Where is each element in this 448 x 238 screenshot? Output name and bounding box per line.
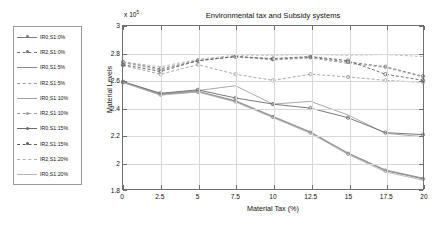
y-tick-mark (419, 26, 423, 27)
x-tick-mark (236, 26, 237, 30)
y-tick-mark (123, 54, 127, 55)
chart-legend: IR0,S1:0%IR2,S1:0%IR0,S1:5%IR2,S1:5%IR0,… (13, 26, 82, 185)
legend-line-sample-icon (17, 78, 37, 88)
y-tick-mark (123, 81, 127, 82)
legend-item-label: IR2,S1:10% (40, 110, 68, 116)
y-tick-mark (419, 190, 423, 191)
legend-item-label: IR0,S1:15% (40, 125, 68, 131)
x-tick-label: 7.5 (231, 193, 240, 200)
x-tick-mark (199, 26, 200, 30)
legend-marker-icon (26, 127, 29, 130)
legend-item[interactable]: IR0,S1:0% (14, 30, 81, 43)
x-tick-mark (424, 185, 425, 189)
series-line (123, 57, 423, 77)
x-tick-mark (312, 26, 313, 30)
series-lines (123, 26, 423, 189)
legend-item[interactable]: IR0,S1:20% (14, 168, 81, 181)
y-tick-label: 1.8 (100, 187, 120, 194)
x-tick-label: 10 (269, 193, 276, 200)
legend-item-label: IR0,S1:10% (40, 95, 68, 101)
x-tick-label: 12.5 (304, 193, 317, 200)
legend-item-label: IR0,S1:0% (40, 34, 65, 40)
legend-item-label: IR0,S1:5% (40, 64, 65, 70)
legend-item[interactable]: IR2,S1:10% (14, 107, 81, 120)
y-tick-mark (123, 164, 127, 165)
legend-line-sample-icon (17, 123, 37, 133)
gridline-horizontal (123, 81, 423, 82)
legend-item-label: IR2,S1:15% (40, 141, 68, 147)
x-tick-mark (161, 185, 162, 189)
gridline-horizontal (123, 136, 423, 137)
legend-marker-icon (26, 50, 29, 53)
y-axis-ticks: 1.822.22.42.62.83 (100, 25, 120, 190)
legend-marker-icon (26, 112, 29, 115)
x-tick-mark (199, 185, 200, 189)
x-tick-mark (387, 26, 388, 30)
gridline-vertical (236, 26, 237, 189)
y-tick-label: 2.8 (100, 49, 120, 56)
x-tick-mark (274, 26, 275, 30)
x-tick-label: 15 (345, 193, 352, 200)
gridline-horizontal (123, 54, 423, 55)
y-tick-mark (123, 109, 127, 110)
x-tick-mark (312, 185, 313, 189)
legend-item[interactable]: IR2,S1:20% (14, 153, 81, 166)
legend-line-sample-icon (17, 32, 37, 42)
series-line (123, 82, 423, 180)
gridline-vertical (387, 26, 388, 189)
gridline-horizontal (123, 109, 423, 110)
y-tick-label: 2 (100, 159, 120, 166)
legend-line-sample-icon (17, 93, 37, 103)
legend-item-label: IR2,S1:20% (40, 156, 68, 162)
gridline-vertical (312, 26, 313, 189)
legend-line-sample-icon (17, 169, 37, 179)
legend-line-sample-icon (17, 139, 37, 149)
x-tick-mark (274, 185, 275, 189)
y-tick-mark (123, 26, 127, 27)
x-tick-mark (387, 185, 388, 189)
legend-marker-icon (26, 142, 29, 145)
legend-item[interactable]: IR0,S1:15% (14, 122, 81, 135)
legend-item-label: IR0,S1:20% (40, 171, 68, 177)
legend-item[interactable]: IR2,S1:15% (14, 137, 81, 150)
chart-page: IR0,S1:0%IR2,S1:0%IR0,S1:5%IR2,S1:5%IR0,… (0, 0, 448, 238)
x-axis-ticks: 02.557.51012.51517.520 (122, 193, 424, 205)
y-tick-label: 3 (100, 22, 120, 29)
legend-item-label: IR2,S1:0% (40, 49, 65, 55)
x-tick-mark (424, 26, 425, 30)
x-tick-mark (350, 26, 351, 30)
legend-item[interactable]: IR2,S1:5% (14, 76, 81, 89)
y-tick-label: 2.4 (100, 104, 120, 111)
y-tick-mark (419, 109, 423, 110)
legend-item[interactable]: IR0,S1:5% (14, 61, 81, 74)
x-tick-mark (236, 185, 237, 189)
gridline-vertical (350, 26, 351, 189)
x-tick-mark (123, 185, 124, 189)
chart-container: x 105 Environmental tax and Subsidy syst… (100, 8, 448, 238)
plot-area (122, 25, 424, 190)
x-tick-label: 0 (120, 193, 124, 200)
legend-item[interactable]: IR2,S1:0% (14, 45, 81, 58)
x-tick-label: 17.5 (380, 193, 393, 200)
gridline-horizontal (123, 164, 423, 165)
y-tick-mark (123, 136, 127, 137)
legend-line-sample-icon (17, 62, 37, 72)
x-tick-label: 5 (196, 193, 200, 200)
x-tick-mark (161, 26, 162, 30)
legend-item[interactable]: IR0,S1:10% (14, 91, 81, 104)
legend-marker-icon (26, 35, 29, 38)
y-tick-label: 2.2 (100, 132, 120, 139)
y-tick-mark (419, 54, 423, 55)
legend-line-sample-icon (17, 108, 37, 118)
y-tick-mark (419, 164, 423, 165)
x-tick-label: 20 (420, 193, 427, 200)
gridline-vertical (199, 26, 200, 189)
y-tick-mark (419, 81, 423, 82)
x-axis-label: Material Tax (%) (122, 204, 424, 213)
gridline-vertical (274, 26, 275, 189)
x-tick-label: 2.5 (155, 193, 164, 200)
y-tick-label: 2.6 (100, 77, 120, 84)
legend-item-label: IR2,S1:5% (40, 80, 65, 86)
legend-line-sample-icon (17, 154, 37, 164)
gridline-vertical (161, 26, 162, 189)
